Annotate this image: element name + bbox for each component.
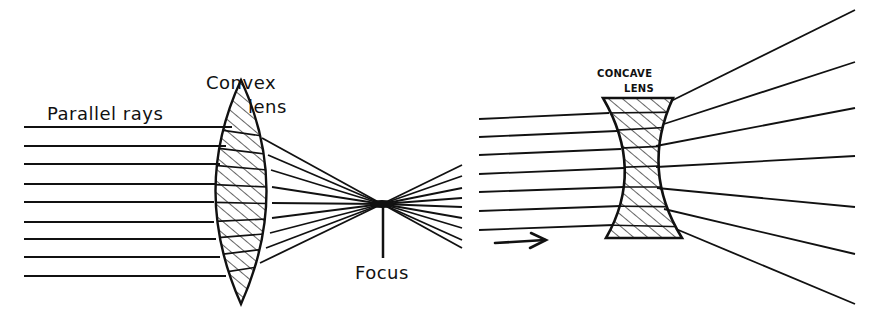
convex-label: Convex <box>206 72 276 93</box>
convex-parallel-rays <box>24 127 232 276</box>
concave-lens-label: LENS <box>624 83 654 94</box>
diagram-canvas <box>0 0 879 321</box>
convex-lens-label: lens <box>248 96 287 117</box>
concave-label: CONCAVE <box>597 68 652 79</box>
concave-incoming-rays <box>479 113 624 230</box>
focus-label: Focus <box>355 262 409 283</box>
convex-converging-rays <box>260 138 382 263</box>
convex-diverging-rays <box>382 165 462 248</box>
parallel-rays-label: Parallel rays <box>47 103 163 124</box>
concave-diverging-rays <box>656 10 855 304</box>
lens-diagram: Parallel rays Convex lens Focus CONCAVE … <box>0 0 879 321</box>
direction-arrow <box>495 233 546 248</box>
